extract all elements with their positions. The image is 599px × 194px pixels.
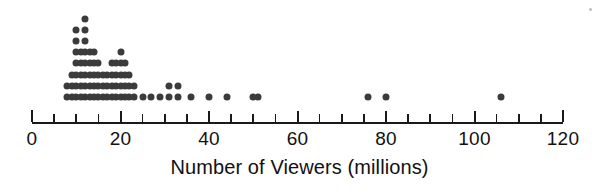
x-axis-end-tick xyxy=(562,110,564,122)
x-axis-tick xyxy=(142,114,144,122)
x-axis-tick-label: 40 xyxy=(198,128,220,150)
data-dot xyxy=(365,94,372,101)
x-axis-title: Number of Viewers (millions) xyxy=(0,156,599,179)
x-axis-tick xyxy=(452,114,454,122)
data-dot xyxy=(383,94,390,101)
data-dot xyxy=(139,94,146,101)
x-axis-tick xyxy=(496,114,498,122)
data-dot xyxy=(206,94,213,101)
x-axis-tick xyxy=(275,114,277,122)
data-dot xyxy=(498,94,505,101)
data-dot xyxy=(82,15,89,22)
data-dot xyxy=(166,82,173,89)
x-axis-line xyxy=(32,122,563,124)
x-axis-tick-label: 80 xyxy=(375,128,397,150)
data-dot xyxy=(82,26,89,33)
data-dot xyxy=(130,82,137,89)
data-dot xyxy=(95,60,102,67)
x-axis-tick xyxy=(297,111,299,122)
x-axis-tick-label: 0 xyxy=(27,128,38,150)
x-axis-tick xyxy=(319,114,321,122)
x-axis-tick xyxy=(230,114,232,122)
dot-plot-figure: 020406080100120 Number of Viewers (milli… xyxy=(0,0,599,194)
x-axis-tick xyxy=(164,114,166,122)
data-dot xyxy=(117,49,124,56)
data-dot xyxy=(82,38,89,45)
x-axis-tick xyxy=(186,114,188,122)
data-dot xyxy=(130,94,137,101)
data-dot xyxy=(90,49,97,56)
data-dot xyxy=(126,71,133,78)
data-dot xyxy=(223,94,230,101)
data-dot xyxy=(73,26,80,33)
x-axis-end-tick xyxy=(31,110,33,122)
x-axis-tick xyxy=(341,114,343,122)
data-dot xyxy=(121,60,128,67)
x-axis-tick xyxy=(252,114,254,122)
data-dot xyxy=(254,94,261,101)
x-axis-tick xyxy=(363,114,365,122)
x-axis-tick xyxy=(53,114,55,122)
x-axis-tick xyxy=(75,114,77,122)
data-dot xyxy=(175,94,182,101)
x-axis-tick-label: 120 xyxy=(547,128,579,150)
data-dot xyxy=(73,38,80,45)
x-axis-tick-label: 20 xyxy=(110,128,132,150)
scan-artifact-dot xyxy=(589,8,592,11)
data-dot xyxy=(157,94,164,101)
data-dot xyxy=(166,94,173,101)
x-axis-tick-label: 60 xyxy=(287,128,309,150)
x-axis-tick-label: 100 xyxy=(458,128,490,150)
x-axis-tick xyxy=(474,111,476,122)
x-axis-tick xyxy=(208,111,210,122)
x-axis-tick xyxy=(429,114,431,122)
x-axis-tick xyxy=(98,114,100,122)
x-axis-tick xyxy=(540,114,542,122)
x-axis-tick xyxy=(518,114,520,122)
data-dot xyxy=(148,94,155,101)
x-axis-tick xyxy=(120,111,122,122)
x-axis-tick xyxy=(407,114,409,122)
x-axis-tick xyxy=(385,111,387,122)
data-dot xyxy=(188,94,195,101)
data-dot xyxy=(175,82,182,89)
